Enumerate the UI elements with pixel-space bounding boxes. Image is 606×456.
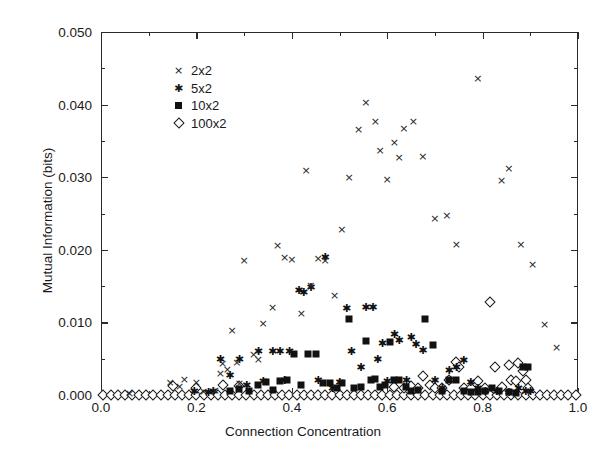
data-point-cross: × [297,307,306,318]
data-point-square [453,377,460,384]
data-point-diamond [441,389,452,400]
data-point-diamond [334,389,345,400]
data-point-cross: × [218,358,227,369]
data-point-square [255,381,262,388]
data-point-square [319,379,326,386]
data-point-square [262,378,269,385]
data-point-diamond [198,389,209,400]
data-point-diamond [453,362,464,373]
data-point-diamond [413,389,424,400]
data-point-diamond [191,382,202,393]
data-point-cross: × [516,238,525,249]
data-point-cross: × [125,387,134,398]
data-point-asterisk: ✱ [335,376,344,387]
data-point-diamond [141,389,152,400]
legend-label: 5x2 [191,80,212,98]
data-point-cross: × [497,175,506,186]
data-point-asterisk: ✱ [294,284,303,295]
data-point-diamond [506,389,517,400]
data-point-cross: × [371,116,380,127]
data-point-square [326,380,333,387]
data-point-asterisk: ✱ [242,379,251,390]
data-point-asterisk: ✱ [492,385,501,396]
data-point-square [381,381,388,388]
data-point-square [496,387,503,394]
data-point-diamond [455,389,466,400]
data-point-asterisk: ✱ [204,387,213,398]
data-point-diamond [327,389,338,400]
diamond-icon [170,119,187,127]
data-point-diamond [520,375,531,386]
data-point-diamond [498,389,509,400]
data-point-cross: × [552,342,561,353]
data-point-diamond [503,359,514,370]
data-point-diamond [162,389,173,400]
data-point-square [291,350,298,357]
data-point-cross: × [375,144,384,155]
x-axis-title: Connection Concentration [0,424,606,439]
data-point-asterisk: ✱ [390,329,399,340]
data-point-cross: × [504,163,513,174]
data-point-diamond [477,389,488,400]
x-tick-label: 0.0 [92,400,111,415]
data-point-diamond [522,383,533,394]
data-point-square [338,380,345,387]
data-point-asterisk: ✱ [526,386,535,397]
data-point-diamond [155,389,166,400]
data-point-square [481,388,488,395]
data-point-diamond [479,383,490,394]
data-point-square [439,387,446,394]
data-point-square [474,389,481,396]
data-point-cross: × [199,386,208,397]
data-point-asterisk: ✱ [437,383,446,394]
data-point-asterisk: ✱ [254,346,263,357]
data-point-square [408,387,415,394]
data-point-asterisk: ✱ [189,386,198,397]
data-point-diamond [420,389,431,400]
data-point-diamond [472,376,483,387]
data-point-asterisk: ✱ [280,374,289,385]
data-point-diamond [212,389,223,400]
x-tick-label: 1.0 [569,400,588,415]
data-point-diamond [227,389,238,400]
data-point-diamond [219,389,230,400]
data-point-square [226,387,233,394]
data-point-cross: × [395,151,404,162]
data-point-asterisk: ✱ [306,281,315,292]
data-point-diamond [398,389,409,400]
legend: ×2x2✱5x210x2100x2 [170,62,226,132]
data-point-cross: × [540,318,549,329]
data-point-cross: × [273,239,282,250]
data-point-cross: × [442,209,451,220]
data-point-asterisk: ✱ [285,346,294,357]
data-point-cross: × [254,353,263,364]
data-point-diamond [470,389,481,400]
legend-entry-2x2: ×2x2 [170,62,226,80]
data-point-diamond [112,389,123,400]
data-point-cross: × [280,252,289,263]
data-point-diamond [348,389,359,400]
data-point-square [298,381,305,388]
data-point-cross: × [452,238,461,249]
data-point-asterisk: ✱ [275,345,284,356]
data-point-diamond [234,389,245,400]
legend-entry-100x2: 100x2 [170,115,226,133]
data-point-square [520,364,527,371]
data-point-asterisk: ✱ [368,302,377,313]
data-point-diamond [191,389,202,400]
x-axis-tick [578,32,579,39]
data-point-diamond [534,389,545,400]
data-point-asterisk: ✱ [430,375,439,386]
data-point-square [284,377,291,384]
data-point-diamond [417,370,428,381]
data-point-diamond [429,383,440,394]
data-point-square [350,385,357,392]
legend-entry-5x2: ✱5x2 [170,80,226,98]
data-point-diamond [520,389,531,400]
data-point-diamond [389,381,400,392]
data-point-square [377,384,384,391]
data-point-diamond [126,389,137,400]
data-point-diamond [320,389,331,400]
data-point-diamond [434,389,445,400]
data-point-asterisk: ✱ [216,353,225,364]
